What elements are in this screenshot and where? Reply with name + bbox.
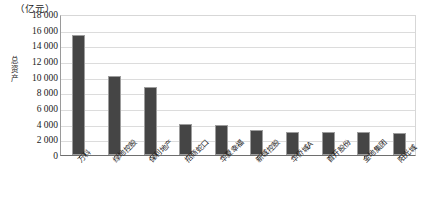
x-axis-category-labels: 万科绿地控股保利地产招商蛇口华夏幸福新城控股华侨城A首开股份金地集团阳光城 <box>60 157 416 211</box>
y-axis-tick-label: 12 000 <box>32 57 58 67</box>
bar <box>108 76 121 155</box>
y-axis-tick-label: 14 000 <box>32 41 58 51</box>
y-axis-tick-label: 10 000 <box>32 73 58 83</box>
y-axis-tick-labels: 02 0004 0006 0008 00010 00012 00014 0001… <box>14 15 58 156</box>
y-axis-tick-label: 8 000 <box>37 88 58 98</box>
y-axis-tick-label: 4 000 <box>37 120 58 130</box>
bar <box>144 87 157 155</box>
y-axis-tick-label: 0 <box>53 151 58 161</box>
plot-area <box>60 15 416 156</box>
bar-chart: （亿元） 总资产 02 0004 0006 0008 00010 00012 0… <box>0 0 426 211</box>
y-axis-tick-label: 18 000 <box>32 10 58 20</box>
y-axis-tick-label: 2 000 <box>37 135 58 145</box>
bar <box>72 35 85 155</box>
y-axis-tick-label: 6 000 <box>37 104 58 114</box>
y-axis-tick-label: 16 000 <box>32 26 58 36</box>
bar-series <box>61 16 415 155</box>
